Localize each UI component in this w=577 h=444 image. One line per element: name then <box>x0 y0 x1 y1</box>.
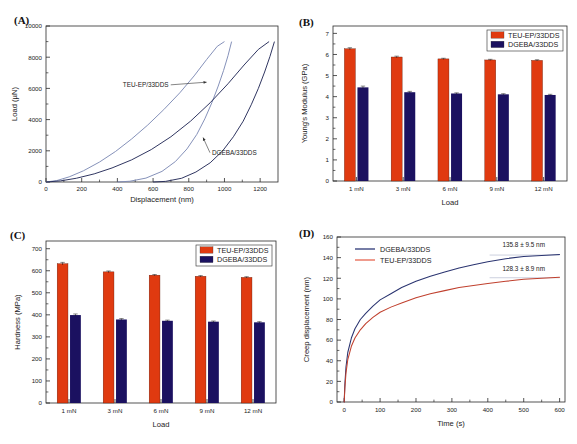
panel-d-svg: (D) 020406080100120140160010020030040050… <box>289 217 577 442</box>
y-tick-label: 7 <box>326 30 330 37</box>
legend-label: TEU-EP/33DDS <box>380 256 432 265</box>
bar <box>116 319 127 403</box>
y-tick-label: 6 <box>326 51 330 58</box>
x-tick-label: 500 <box>519 406 530 413</box>
x-tick-label: 12 mN <box>534 185 552 192</box>
x-tick-label: 12 mN <box>244 407 262 414</box>
y-tick-label: 1 <box>326 156 330 163</box>
bar <box>162 321 173 403</box>
y-tick-label: 100 <box>32 377 43 384</box>
xlabel: Load <box>153 420 170 429</box>
panel-d-creep-displacement: (D) 020406080100120140160010020030040050… <box>289 217 577 442</box>
y-tick-label: 4000 <box>28 116 42 123</box>
y-tick-label: 8000 <box>28 54 42 61</box>
bar <box>485 60 496 181</box>
legend-label: DGEBA/33DDS <box>508 40 559 49</box>
legend-label: TEU-EP/33DDS <box>508 31 560 40</box>
panel-c-hardness: (C) 01002003004005006007001 mN3 mN6 mN9 … <box>0 217 288 442</box>
y-tick-label: 400 <box>32 311 43 318</box>
panel-a-xlabel: Displacement (nm) <box>130 195 194 204</box>
x-tick-label: 200 <box>77 185 88 192</box>
xlabel: Load <box>442 198 459 207</box>
panel-c-tag: (C) <box>10 229 26 242</box>
panel-a-ylabel: Load (µN) <box>10 87 19 121</box>
x-tick-label: 1 mN <box>62 407 77 414</box>
bar <box>404 92 415 181</box>
x-tick-label: 200 <box>411 406 422 413</box>
y-tick-label: 140 <box>323 254 334 261</box>
legend-label: TEU-EP/33DDS <box>217 246 269 255</box>
bar <box>391 57 402 181</box>
y-tick-label: 10000 <box>25 22 43 29</box>
bar <box>70 315 81 403</box>
y-tick-label: 80 <box>326 316 333 323</box>
panel-a-load-displacement: (A) 020004000600080001000002004006008001… <box>0 4 288 216</box>
bar <box>357 87 368 181</box>
bar <box>241 277 252 403</box>
legend-swatch <box>200 247 213 253</box>
bar <box>438 59 449 181</box>
figure-nanoindentation-panels: (A) 020004000600080001000002004006008001… <box>0 0 577 444</box>
bar <box>103 272 114 403</box>
x-tick-label: 600 <box>148 185 159 192</box>
panel-b-svg: (B) 012345671 mN3 mN6 mN9 mN12 mNLoadYou… <box>289 4 577 216</box>
y-tick-label: 40 <box>326 357 333 364</box>
legend-swatch <box>491 32 504 38</box>
x-tick-label: 600 <box>554 406 565 413</box>
y-tick-label: 160 <box>323 233 334 240</box>
y-tick-label: 600 <box>32 267 43 274</box>
x-tick-label: 400 <box>112 185 123 192</box>
panel-a-svg: (A) 020004000600080001000002004006008001… <box>0 4 288 216</box>
bar <box>451 93 462 181</box>
bar <box>532 60 543 181</box>
y-tick-label: 4 <box>326 93 330 100</box>
bar <box>344 49 355 181</box>
y-tick-label: 0 <box>39 178 43 185</box>
panel-d-tag: (D) <box>299 227 315 240</box>
panel-d-xlabel: Time (s) <box>437 419 465 428</box>
x-tick-label: 1 mN <box>349 185 364 192</box>
x-tick-label: 0 <box>342 406 346 413</box>
x-tick-label: 1000 <box>218 185 232 192</box>
x-tick-label: 6 mN <box>154 407 169 414</box>
x-tick-label: 100 <box>375 406 386 413</box>
y-tick-label: 700 <box>32 245 43 252</box>
ylabel: Young's Modulus (GPa) <box>300 63 309 143</box>
y-tick-label: 200 <box>32 355 43 362</box>
x-tick-label: 300 <box>447 406 458 413</box>
x-tick-label: 1200 <box>253 185 267 192</box>
panel-b-youngs-modulus: (B) 012345671 mN3 mN6 mN9 mN12 mNLoadYou… <box>289 4 577 216</box>
bar <box>57 264 68 403</box>
bar <box>195 276 206 403</box>
x-tick-label: 6 mN <box>443 185 458 192</box>
y-tick-label: 6000 <box>28 85 42 92</box>
y-tick-label: 0 <box>39 399 43 406</box>
y-tick-label: 5 <box>326 72 330 79</box>
legend-label: DGEBA/33DDS <box>380 245 431 254</box>
ylabel: Hardness (MPa) <box>13 294 22 350</box>
legend-label: DGEBA/33DDS <box>217 255 268 264</box>
bar <box>498 94 509 181</box>
y-tick-label: 20 <box>326 378 333 385</box>
y-tick-label: 0 <box>330 398 334 405</box>
x-tick-label: 9 mN <box>489 185 504 192</box>
panel-b-tag: (B) <box>299 16 314 29</box>
panel-a-annotation: TEU-EP/33DDS <box>123 81 169 88</box>
y-tick-label: 2000 <box>28 147 42 154</box>
y-tick-label: 3 <box>326 114 330 121</box>
x-tick-label: 0 <box>44 185 48 192</box>
bar <box>149 275 160 403</box>
bar <box>254 322 265 403</box>
panel-c-svg: (C) 01002003004005006007001 mN3 mN6 mN9 … <box>0 217 288 442</box>
panel-d-annotation: 135.8 ± 9.5 nm <box>502 241 545 248</box>
x-tick-label: 3 mN <box>108 407 123 414</box>
x-tick-label: 9 mN <box>200 407 215 414</box>
bar <box>545 95 556 181</box>
y-tick-label: 2 <box>326 135 330 142</box>
legend-swatch <box>491 41 504 47</box>
panel-a-annotation: DGEBA/33DDS <box>212 149 257 156</box>
panel-d-annotation: 128.3 ± 8.9 nm <box>502 265 545 272</box>
y-tick-label: 300 <box>32 333 43 340</box>
x-tick-label: 800 <box>184 185 195 192</box>
bar <box>208 322 219 403</box>
